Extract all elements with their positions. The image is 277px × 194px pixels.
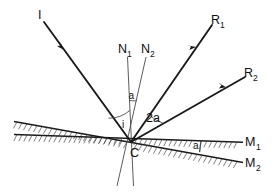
label-normal-2: N 2 bbox=[141, 42, 155, 59]
label-incident-ray: I bbox=[38, 8, 41, 22]
label-reflected-ray-1-base: R bbox=[211, 13, 220, 27]
label-mirror-1-sub: 1 bbox=[256, 142, 261, 152]
label-angle-2a: 2a bbox=[146, 111, 160, 125]
label-normal-1-sub: 1 bbox=[127, 49, 132, 59]
label-mirror-2: M 2 bbox=[245, 156, 261, 173]
mirror-2-line bbox=[13, 122, 243, 169]
mirror-2-hatching bbox=[13, 122, 237, 168]
label-mirror-1: M 1 bbox=[245, 135, 261, 152]
label-angle-i: i bbox=[122, 119, 124, 130]
label-mirror-1-base: M bbox=[245, 135, 255, 149]
label-vertex-c: C bbox=[130, 146, 139, 160]
label-angle-a-mirrors: a bbox=[193, 140, 199, 151]
label-reflected-ray-1-sub: 1 bbox=[220, 20, 225, 30]
label-normal-1-base: N bbox=[118, 42, 127, 56]
label-reflected-ray-2: R 2 bbox=[244, 66, 258, 83]
label-normal-1: N 1 bbox=[118, 42, 132, 59]
incident-ray bbox=[44, 22, 131, 142]
label-normal-2-sub: 2 bbox=[150, 49, 155, 59]
label-angle-a: a bbox=[129, 90, 135, 101]
optics-diagram: I R 1 R 2 N 1 N 2 M 1 M bbox=[0, 0, 277, 194]
label-normal-2-base: N bbox=[141, 42, 150, 56]
normal-1-line bbox=[128, 57, 134, 186]
label-reflected-ray-2-base: R bbox=[244, 66, 253, 80]
label-reflected-ray-2-sub: 2 bbox=[253, 73, 258, 83]
label-reflected-ray-1: R 1 bbox=[211, 13, 225, 30]
label-mirror-2-sub: 2 bbox=[256, 163, 261, 173]
diagram-canvas: I R 1 R 2 N 1 N 2 M 1 M bbox=[0, 0, 277, 194]
reflected-ray-2 bbox=[131, 77, 245, 142]
label-mirror-2-base: M bbox=[245, 156, 255, 170]
